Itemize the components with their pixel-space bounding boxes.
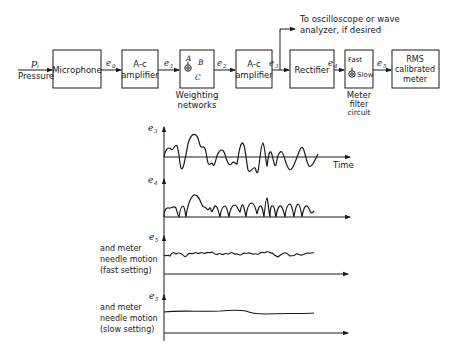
svg-text:circuit: circuit [347,108,370,117]
weighting-caption: Weighting [176,90,219,100]
ac-amplifier-1-block [122,50,158,88]
e5-fast-label: e [149,232,154,242]
svg-text:i: i [37,62,39,69]
e5-fast-waveform [164,251,314,257]
signal-e0: e [106,58,111,68]
svg-text:1: 1 [170,63,174,69]
svg-text:needle motion: needle motion [100,314,158,323]
svg-text:3: 3 [154,128,158,134]
microphone-label: Microphone [52,65,101,75]
svg-text:amplifier: amplifier [121,70,159,80]
svg-text:networks: networks [178,100,218,110]
svg-text:5: 5 [155,296,159,302]
svg-text:amplifier: amplifier [235,70,273,80]
sound-level-meter-diagram: p i Pressure Microphone A-c amplifier A … [0,0,456,359]
e5-slow-waveform [164,310,314,314]
branch-note: To oscilloscope or wave [299,14,400,24]
ac-amplifier-2-block [236,50,272,88]
svg-text:2: 2 [222,63,227,69]
svg-text:5: 5 [383,63,387,69]
signal-e3: e [269,58,274,68]
e3-label: e [148,123,153,133]
signal-e2: e [217,58,222,68]
weighting-knob-icon [185,65,191,71]
svg-text:calibrated: calibrated [395,65,435,74]
svg-text:5: 5 [155,237,159,243]
svg-text:Fast: Fast [348,56,362,64]
svg-text:needle motion: needle motion [100,255,158,264]
rectifier-label: Rectifier [294,65,330,75]
svg-text:(fast setting): (fast setting) [100,266,152,275]
svg-text:(slow setting): (slow setting) [100,325,154,334]
svg-text:RMS: RMS [406,55,424,64]
pressure-label: Pressure [18,71,54,81]
svg-text:A-c: A-c [133,59,147,69]
e3-waveform [164,134,318,172]
svg-text:Slow: Slow [357,71,374,79]
svg-text:4: 4 [333,63,338,69]
signal-e1: e [164,58,169,68]
filter-knob-icon [349,71,355,77]
svg-text:analyzer, if desired: analyzer, if desired [300,25,381,35]
svg-text:and meter: and meter [100,303,142,312]
svg-text:4: 4 [153,180,158,186]
e4-label: e [148,175,153,185]
meter-filter-caption: Meter [347,90,372,100]
svg-text:and meter: and meter [100,244,142,253]
svg-text:C: C [195,73,201,82]
svg-text:3: 3 [275,63,279,69]
signal-e5: e [377,58,382,68]
svg-text:0: 0 [112,63,116,69]
svg-text:meter: meter [403,75,428,84]
svg-text:B: B [197,58,204,67]
svg-text:A-c: A-c [247,59,261,69]
time-axis-label: Time [332,160,354,170]
signal-e4: e [328,58,333,68]
svg-text:A: A [185,54,192,63]
e4-waveform [164,195,314,217]
e5-slow-label: e [149,291,154,301]
